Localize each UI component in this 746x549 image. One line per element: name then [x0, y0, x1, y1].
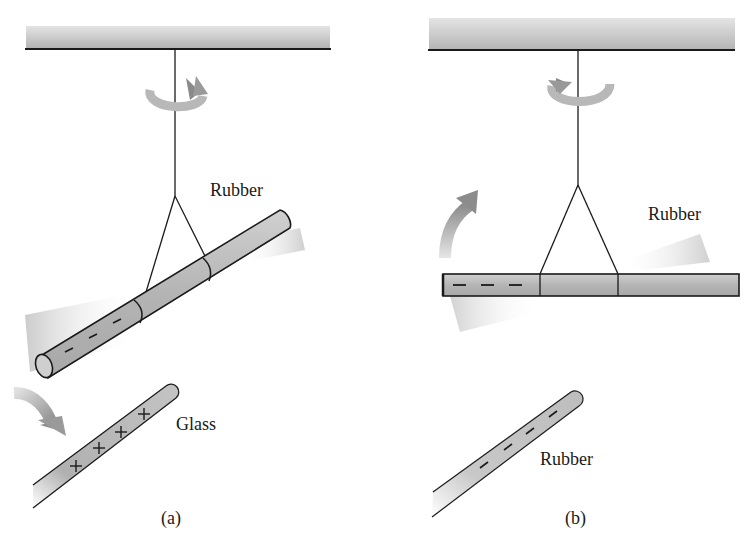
label-suspended-rod-a: Rubber [210, 180, 263, 201]
electrostatics-diagram [0, 0, 746, 549]
caption-b: (b) [565, 508, 586, 529]
label-suspended-rod-b: Rubber [648, 204, 701, 225]
panel-a [14, 26, 331, 508]
panel-b [428, 18, 739, 517]
repulsion-arrow-icon [445, 190, 478, 258]
suspension-v-b [540, 185, 618, 274]
ceiling-a [25, 26, 331, 49]
glass-rod [33, 384, 179, 508]
suspended-rubber-rod-b [443, 274, 739, 296]
label-held-rod-a: Glass [176, 414, 216, 435]
label-held-rod-b: Rubber [540, 449, 593, 470]
rotation-arrow-icon [548, 78, 610, 102]
rotation-arrow-icon [150, 76, 208, 107]
ceiling-b [428, 18, 735, 50]
suspended-rubber-rod-a [32, 210, 290, 380]
caption-a: (a) [161, 508, 181, 529]
attraction-arrow-icon [14, 393, 66, 436]
